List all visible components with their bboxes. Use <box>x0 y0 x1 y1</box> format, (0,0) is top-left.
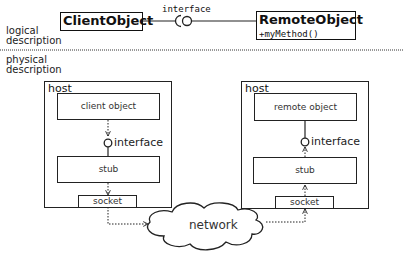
left-socket-box: socket <box>78 195 137 208</box>
remote-object-class: RemoteObject <box>256 11 356 30</box>
left-stub-box: stub <box>57 156 160 183</box>
physical-label-line2: description <box>6 65 62 75</box>
right-stub-box: stub <box>253 157 357 184</box>
logical-label-line2: description <box>6 36 62 46</box>
client-object-class: ClientObject <box>60 12 143 31</box>
right-socket-box: socket <box>275 196 334 209</box>
remote-object-method: +myMethod() <box>256 29 356 40</box>
physical-label: physical description <box>6 55 62 75</box>
right-interface-label: interface <box>311 136 360 148</box>
logical-label: logical description <box>6 26 62 46</box>
interface-label: interface <box>162 4 211 14</box>
network-label: network <box>189 218 238 232</box>
client-object-box: client object <box>57 93 160 120</box>
remote-object-box: remote object <box>254 93 357 121</box>
left-interface-label: interface <box>114 137 163 149</box>
lollipop-interface-icon <box>142 16 256 27</box>
